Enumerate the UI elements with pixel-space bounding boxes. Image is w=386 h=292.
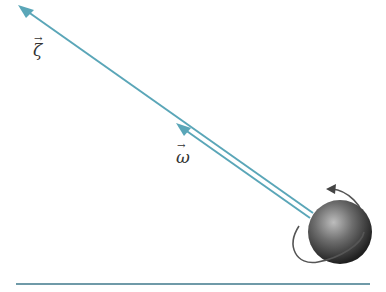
zeta-label: → ζ <box>33 42 42 59</box>
diagram-canvas <box>0 0 386 292</box>
rotation-arrowhead-icon <box>326 184 336 194</box>
vector-arrow-icon: → <box>177 141 185 151</box>
omega-label: → ω <box>176 149 190 166</box>
zeta-arrowhead-icon <box>18 5 34 18</box>
zeta-vector <box>18 5 313 213</box>
omega-vector <box>176 123 310 218</box>
vector-arrow-icon: → <box>34 34 42 44</box>
